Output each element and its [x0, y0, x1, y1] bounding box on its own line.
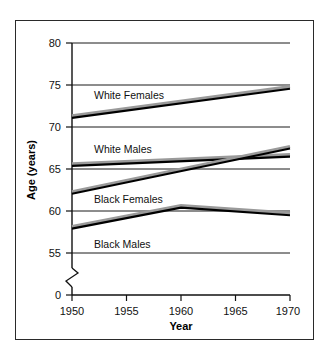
- series-black-females-line: [72, 149, 290, 194]
- ytick-label-0: 0: [55, 289, 61, 301]
- series-black-males-shadow: [72, 206, 290, 227]
- xtick-label-1970: 1970: [276, 305, 300, 317]
- series-label-white-females: White Females: [94, 89, 164, 101]
- ytick-label-80: 80: [49, 37, 61, 49]
- xtick-label-1965: 1965: [223, 305, 247, 317]
- x-axis: [72, 295, 290, 301]
- y-axis-break-icon: [66, 268, 78, 287]
- ytick-label-65: 65: [49, 163, 61, 175]
- series-label-black-females: Black Females: [94, 193, 163, 205]
- ytick-label-70: 70: [49, 121, 61, 133]
- series-black-males: [72, 206, 290, 229]
- xtick-label-1960: 1960: [169, 305, 193, 317]
- x-axis-title: Year: [169, 320, 193, 332]
- ytick-label-60: 60: [49, 205, 61, 217]
- figure-container: 80 75 70 65 60 55 0 1950 1955 1960 1965 …: [0, 0, 329, 357]
- line-chart: 80 75 70 65 60 55 0 1950 1955 1960 1965 …: [0, 0, 329, 357]
- y-axis-title: Age (years): [25, 140, 37, 200]
- series-label-black-males: Black Males: [94, 238, 151, 250]
- series-label-white-males: White Males: [94, 143, 152, 155]
- y-tick-marks: [66, 43, 72, 295]
- xtick-label-1955: 1955: [114, 305, 138, 317]
- ytick-label-55: 55: [49, 247, 61, 259]
- xtick-label-1950: 1950: [60, 305, 84, 317]
- ytick-label-75: 75: [49, 79, 61, 91]
